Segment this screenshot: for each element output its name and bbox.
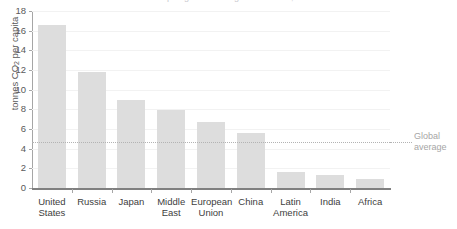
x-category-label-line: United xyxy=(32,196,72,207)
x-category-label-line: States xyxy=(32,207,72,218)
y-tick-mark xyxy=(29,188,32,189)
bar xyxy=(38,25,66,188)
x-tick-mark xyxy=(310,189,311,193)
x-category-label: Russia xyxy=(72,196,112,207)
y-tick-mark xyxy=(29,70,32,71)
global-average-leader-line xyxy=(390,142,412,143)
bar xyxy=(157,110,185,188)
x-tick-mark xyxy=(350,189,351,193)
bar xyxy=(117,100,145,188)
x-category-label: LatinAmerica xyxy=(271,196,311,218)
x-axis-line xyxy=(32,188,391,190)
y-tick-label: 14 xyxy=(0,45,26,55)
x-category-label: China xyxy=(231,196,271,207)
x-tick-mark xyxy=(271,189,272,193)
y-tick-mark xyxy=(29,149,32,150)
x-category-label-line: East xyxy=(151,207,191,218)
x-category-label: India xyxy=(310,196,350,207)
x-tick-mark xyxy=(151,189,152,193)
x-category-label: MiddleEast xyxy=(151,196,191,218)
x-category-label-line: European xyxy=(191,196,231,207)
y-tick-label: 2 xyxy=(0,163,26,173)
global-average-label-line1: Global xyxy=(414,131,457,142)
bar xyxy=(78,72,106,188)
x-category-label-line: Latin xyxy=(271,196,311,207)
gridline xyxy=(32,70,390,71)
y-tick-label: 8 xyxy=(0,104,26,114)
bar xyxy=(277,172,305,188)
y-tick-mark xyxy=(29,31,32,32)
x-tick-mark xyxy=(191,189,192,193)
gridline xyxy=(32,50,390,51)
x-category-label-line: Union xyxy=(191,207,231,218)
y-tick-label: 18 xyxy=(0,6,26,16)
y-tick-mark xyxy=(29,50,32,51)
bar xyxy=(197,122,225,188)
gridline xyxy=(32,31,390,32)
y-tick-mark xyxy=(29,129,32,130)
x-tick-mark xyxy=(112,189,113,193)
x-tick-mark xyxy=(231,189,232,193)
x-tick-mark xyxy=(72,189,73,193)
x-category-label: EuropeanUnion xyxy=(191,196,231,218)
y-tick-label: 10 xyxy=(0,85,26,95)
y-tick-mark xyxy=(29,109,32,110)
bar xyxy=(356,179,384,188)
y-tick-label: 6 xyxy=(0,124,26,134)
y-tick-label: 16 xyxy=(0,26,26,36)
bar xyxy=(316,175,344,188)
x-category-label-line: Africa xyxy=(350,196,390,207)
cropped-chart-title-text: Per capita greenhouse gas emissions, 201… xyxy=(141,0,316,2)
x-category-label-line: Russia xyxy=(72,196,112,207)
y-tick-label: 4 xyxy=(0,144,26,154)
y-tick-mark xyxy=(29,168,32,169)
gridline xyxy=(32,11,390,12)
x-category-label: Africa xyxy=(350,196,390,207)
x-category-label-line: America xyxy=(271,207,311,218)
plot-area xyxy=(32,11,390,188)
x-category-label: UnitedStates xyxy=(32,196,72,218)
y-tick-mark xyxy=(29,11,32,12)
y-tick-label: 12 xyxy=(0,65,26,75)
x-category-label-line: Japan xyxy=(112,196,152,207)
global-average-label-line2: average xyxy=(414,142,457,153)
x-category-label: Japan xyxy=(112,196,152,207)
global-average-label: Global average xyxy=(414,131,457,153)
y-tick-label: 0 xyxy=(0,183,26,193)
x-category-label-line: Middle xyxy=(151,196,191,207)
cropped-chart-title: Per capita greenhouse gas emissions, 201… xyxy=(0,0,457,6)
chart-container: Per capita greenhouse gas emissions, 201… xyxy=(0,0,457,229)
x-category-label-line: India xyxy=(310,196,350,207)
y-tick-mark xyxy=(29,90,32,91)
x-category-label-line: China xyxy=(231,196,271,207)
global-average-line xyxy=(32,142,390,143)
